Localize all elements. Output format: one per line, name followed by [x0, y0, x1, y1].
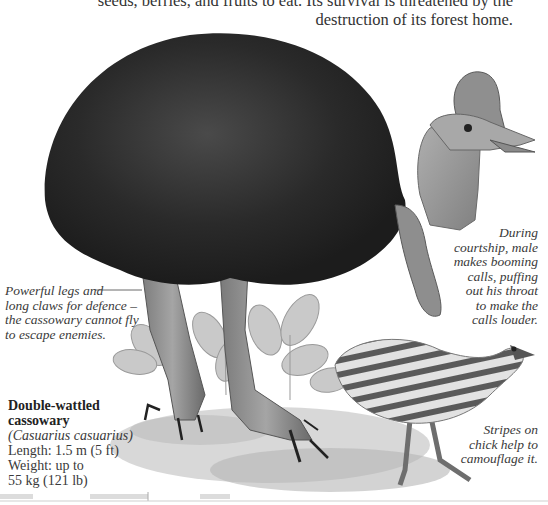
- caption-line: the cassowary cannot fly: [5, 313, 139, 328]
- caption-line: camouflage it.: [461, 452, 538, 467]
- caption-line: Stripes on: [461, 423, 538, 438]
- species-name-line-1: Double-wattled: [8, 398, 133, 413]
- species-fact-box: Double-wattled cassowary (Casuarius casu…: [8, 398, 133, 488]
- scale-strip: [0, 492, 548, 502]
- caption-line: to escape enemies.: [5, 328, 139, 343]
- species-name-line-2: cassowary: [8, 413, 133, 428]
- weight-fact-line-2: 55 kg (121 lb): [8, 473, 133, 488]
- caption-courtship: During courtship, male makes booming cal…: [454, 226, 538, 328]
- caption-line: During: [454, 226, 538, 241]
- caption-line: to make the: [454, 299, 538, 314]
- caption-line: courtship, male: [454, 241, 538, 256]
- adult-body: [45, 33, 406, 284]
- caption-line: makes booming: [454, 255, 538, 270]
- length-fact: Length: 1.5 m (5 ft): [8, 443, 133, 458]
- caption-line: calls, puffing: [454, 270, 538, 285]
- caption-line: calls louder.: [454, 313, 538, 328]
- caption-line: long claws for defence –: [5, 299, 139, 314]
- scientific-name: (Casuarius casuarius): [8, 428, 133, 443]
- caption-line: chick help to: [461, 438, 538, 453]
- caption-line: out his throat: [454, 284, 538, 299]
- caption-chick: Stripes on chick help to camouflage it.: [461, 423, 538, 467]
- caption-legs: Powerful legs and long claws for defence…: [5, 284, 139, 342]
- weight-fact-line-1: Weight: up to: [8, 458, 133, 473]
- caption-line: Powerful legs and: [5, 284, 139, 299]
